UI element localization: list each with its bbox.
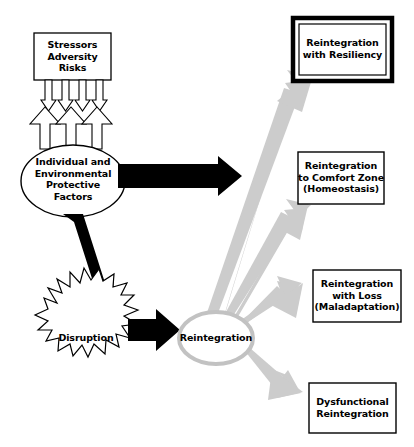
protective-factors-ellipse xyxy=(21,145,125,217)
down-arrow-1 xyxy=(41,80,56,111)
outcome-box-dysfunctional xyxy=(309,383,396,433)
diagram-graphics xyxy=(0,0,414,447)
protective-up-arrows xyxy=(30,107,112,149)
black-arrow-disruption-to-reintegration xyxy=(128,309,180,351)
hollow-up-arrow-2 xyxy=(56,107,86,149)
black-arrow-protective-right xyxy=(118,156,242,196)
diagram-canvas: Stressors Adversity Risks Individual and… xyxy=(0,0,414,447)
reintegration-ellipse xyxy=(179,312,253,364)
down-arrow-2 xyxy=(58,80,73,111)
down-arrow-4 xyxy=(92,80,107,111)
gray-head-4 xyxy=(268,369,301,400)
hollow-up-arrow-1 xyxy=(30,107,60,149)
disruption-starburst xyxy=(35,268,138,357)
outcome-box-resiliency-inner xyxy=(299,24,386,75)
outcome-box-loss xyxy=(313,270,401,322)
outcome-box-comfort-zone xyxy=(298,152,384,204)
down-arrow-3 xyxy=(75,80,90,111)
stressors-box xyxy=(34,33,111,80)
hollow-up-arrow-3 xyxy=(82,107,112,149)
